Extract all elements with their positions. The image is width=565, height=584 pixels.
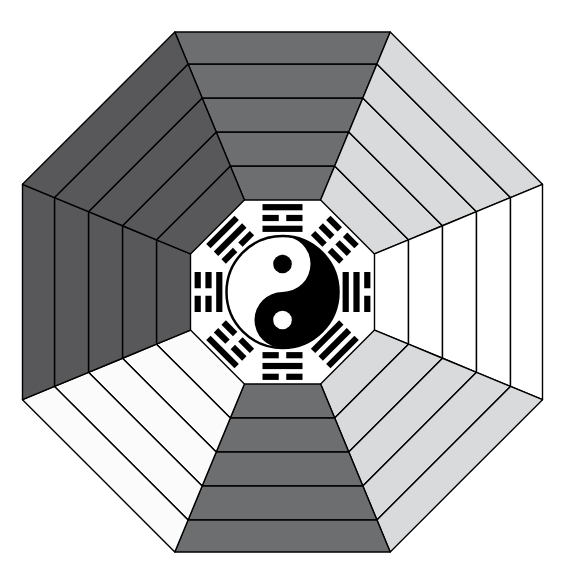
trigram-south-icon	[263, 204, 303, 232]
sector-south-band-trigram[interactable]	[230, 166, 334, 200]
sector-west-band-color[interactable]	[443, 212, 477, 373]
trigram-line-solid	[263, 363, 303, 369]
sector-west-band-trigram-shape	[375, 240, 409, 344]
sector-south-band-trigram-shape	[230, 166, 334, 200]
trigram-line-broken-half	[195, 272, 201, 288]
yin-yang-dark-dot	[273, 255, 292, 274]
sector-north-band-color-shape	[202, 452, 363, 486]
bagua-diagram-canvas	[0, 0, 565, 584]
sector-west-band-direction-shape	[477, 198, 511, 387]
sector-west-band-aspiration[interactable]	[511, 184, 543, 399]
sector-south-band-element-shape	[216, 132, 349, 166]
sector-west-band-element[interactable]	[409, 226, 443, 359]
trigram-line-broken-half	[364, 272, 370, 288]
trigram-line-broken-half	[263, 215, 279, 221]
trigram-west-icon	[343, 272, 371, 312]
sector-west-band-direction[interactable]	[477, 198, 511, 387]
trigram-line-solid	[353, 272, 359, 312]
trigram-line-broken-half	[286, 352, 302, 358]
sector-east-band-trigram-shape	[157, 240, 191, 344]
trigram-line-solid	[343, 272, 349, 312]
trigram-line-broken-half	[286, 215, 302, 221]
trigram-line-solid	[216, 272, 222, 312]
trigram-north-icon	[263, 352, 303, 380]
yin-yang-symbol	[227, 236, 339, 348]
sector-east-band-color[interactable]	[89, 212, 123, 373]
trigram-east-icon	[195, 272, 223, 312]
sector-south-band-color[interactable]	[202, 98, 363, 132]
sector-south-band-aspiration[interactable]	[175, 32, 390, 64]
trigram-line-broken-half	[364, 296, 370, 312]
sector-north-band-element[interactable]	[216, 418, 349, 452]
sector-south-band-color-shape	[202, 98, 363, 132]
trigram-line-solid	[263, 226, 303, 232]
sector-south-band-direction[interactable]	[188, 64, 377, 98]
trigram-line-broken-half	[195, 296, 201, 312]
sector-north-band-direction-shape	[188, 486, 377, 520]
sector-east-band-direction[interactable]	[55, 198, 89, 387]
bagua-octagon-svg	[0, 0, 565, 584]
sector-east-band-aspiration[interactable]	[23, 184, 55, 399]
sector-east-band-element[interactable]	[123, 226, 157, 359]
trigram-line-broken-half	[263, 352, 279, 358]
sector-north-band-aspiration[interactable]	[175, 520, 390, 552]
sector-north-band-direction[interactable]	[188, 486, 377, 520]
sector-north-band-color[interactable]	[202, 452, 363, 486]
trigram-line-broken-half	[263, 374, 279, 380]
sector-west-band-trigram[interactable]	[375, 240, 409, 344]
sector-north-band-element-shape	[216, 418, 349, 452]
sector-east-band-color-shape	[89, 212, 123, 373]
sector-west-band-color-shape	[443, 212, 477, 373]
sector-north-band-trigram-shape	[230, 384, 334, 418]
sector-west-band-element-shape	[409, 226, 443, 359]
sector-north-band-trigram[interactable]	[230, 384, 334, 418]
sector-east-band-element-shape	[123, 226, 157, 359]
yin-yang-light-dot	[273, 311, 292, 330]
sector-east-band-trigram[interactable]	[157, 240, 191, 344]
sector-south-band-aspiration-shape	[175, 32, 390, 64]
sector-east-band-aspiration-shape	[23, 184, 55, 399]
sector-south-band-element[interactable]	[216, 132, 349, 166]
trigram-line-broken-half	[205, 296, 211, 312]
sector-south-band-direction-shape	[188, 64, 377, 98]
trigram-line-solid	[263, 204, 303, 210]
sector-north-band-aspiration-shape	[175, 520, 390, 552]
sector-west-band-aspiration-shape	[511, 184, 543, 399]
trigram-line-broken-half	[205, 272, 211, 288]
trigram-line-broken-half	[286, 374, 302, 380]
sector-east-band-direction-shape	[55, 198, 89, 387]
